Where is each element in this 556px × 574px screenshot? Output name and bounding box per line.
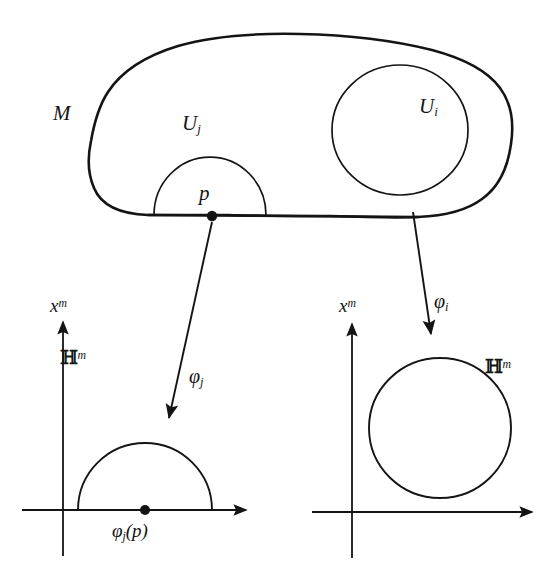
label-chart-ui-sub: i	[434, 104, 438, 119]
label-map-phi-i-sub: i	[445, 300, 448, 314]
label-chart-ui-base: U	[419, 94, 434, 118]
label-image-point-base: φ	[112, 520, 123, 541]
manifold-outline	[89, 34, 513, 218]
right-image-disc	[369, 358, 511, 498]
label-halfspace-left: ℍm	[60, 348, 86, 367]
figure-canvas: M Uj Ui p φj φi xm xm ℍm ℍm φj(p)	[0, 0, 556, 574]
label-chart-uj: Uj	[182, 113, 201, 135]
phi-i-arrow	[413, 212, 431, 334]
label-map-phi-i: φi	[434, 291, 449, 313]
label-manifold-m: M	[53, 103, 71, 124]
label-axis-xm-left-sup: m	[58, 297, 67, 310]
label-axis-xm-right-sup: m	[347, 297, 356, 310]
chart-region-ui	[332, 65, 468, 195]
label-halfspace-right-sup: m	[502, 358, 511, 371]
label-halfspace-left-sup: m	[77, 349, 86, 362]
label-halfspace-right-base: ℍ	[485, 355, 502, 377]
label-image-point: φj(p)	[112, 521, 148, 542]
manifold-group	[89, 34, 513, 221]
label-map-phi-j-sub: j	[200, 375, 203, 389]
label-point-p: p	[199, 183, 210, 204]
label-image-point-arg: (p)	[126, 520, 148, 541]
left-image-halfdisc	[78, 443, 212, 510]
point-p-dot	[207, 211, 217, 221]
phi-j-p-dot	[140, 505, 150, 515]
label-map-phi-j-base: φ	[189, 365, 200, 387]
label-map-phi-j: φj	[189, 366, 204, 388]
label-axis-xm-left: xm	[50, 296, 67, 315]
label-chart-ui: Ui	[419, 96, 438, 118]
label-map-phi-i-base: φ	[434, 290, 445, 312]
manifold-boundary-edge	[148, 215, 418, 217]
label-halfspace-left-base: ℍ	[60, 346, 77, 368]
phi-j-arrow	[169, 222, 212, 418]
label-axis-xm-right: xm	[339, 296, 356, 315]
label-chart-uj-base: U	[182, 111, 197, 135]
diagram-drawing	[0, 0, 556, 574]
chart-region-uj	[154, 157, 266, 215]
label-halfspace-right: ℍm	[485, 357, 511, 376]
label-chart-uj-sub: j	[197, 121, 201, 136]
